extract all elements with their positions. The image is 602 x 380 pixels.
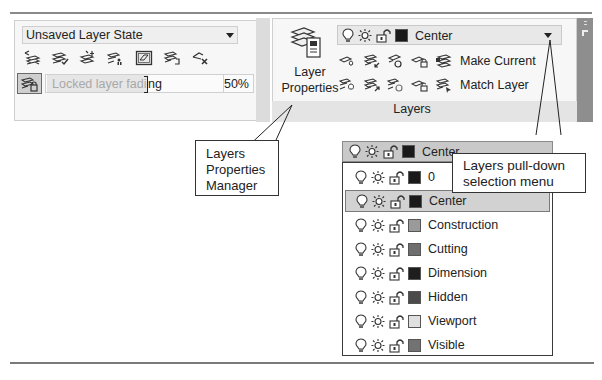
callout-line: selection menu [463,174,585,190]
callout-pulldown-menu: Layers pull-down selection menu [452,153,586,193]
callout-line: Properties [206,162,278,178]
callout-line: Layers pull-down [463,158,585,174]
callout-line: Layers [206,146,278,162]
callout-line: Manager [206,178,278,194]
bottom-rule [10,362,594,364]
callout-layers-properties-manager: Layers Properties Manager [195,140,279,196]
